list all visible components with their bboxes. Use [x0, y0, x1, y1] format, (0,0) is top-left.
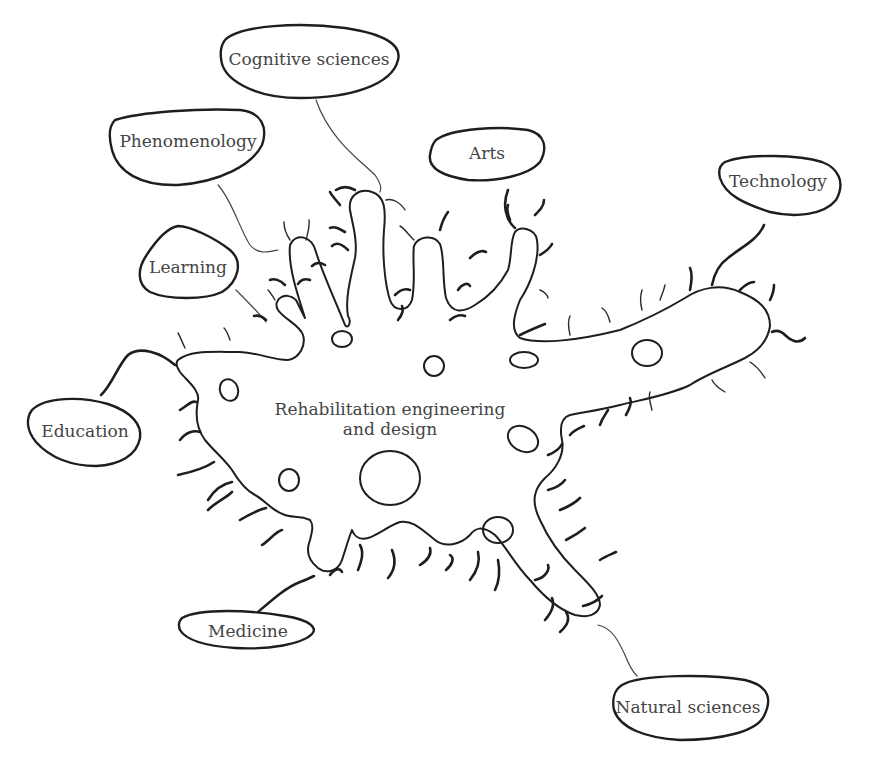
node-label-cognitive-sciences: Cognitive sciences	[229, 50, 390, 70]
link-cognitive-sciences	[316, 100, 381, 192]
node-label-phenomenology: Phenomenology	[119, 132, 256, 152]
node-label-arts: Arts	[469, 144, 505, 164]
node-label-technology: Technology	[729, 172, 827, 192]
link-phenomenology	[218, 185, 278, 252]
node-label-medicine: Medicine	[208, 622, 288, 642]
diagram-drawing	[0, 0, 874, 770]
link-technology	[712, 225, 764, 285]
center-label-line2: and design	[275, 420, 506, 440]
center-label-line1: Rehabilitation engineering	[275, 400, 506, 420]
link-medicine	[258, 576, 314, 612]
diagram-canvas: Cognitive sciences Phenomenology Arts Te…	[0, 0, 874, 770]
node-label-education: Education	[41, 422, 128, 442]
link-education	[101, 351, 175, 395]
node-label-natural-sciences: Natural sciences	[616, 698, 761, 718]
node-label-learning: Learning	[149, 258, 227, 278]
center-label: Rehabilitation engineering and design	[275, 400, 506, 439]
link-natural-sciences	[598, 625, 637, 676]
